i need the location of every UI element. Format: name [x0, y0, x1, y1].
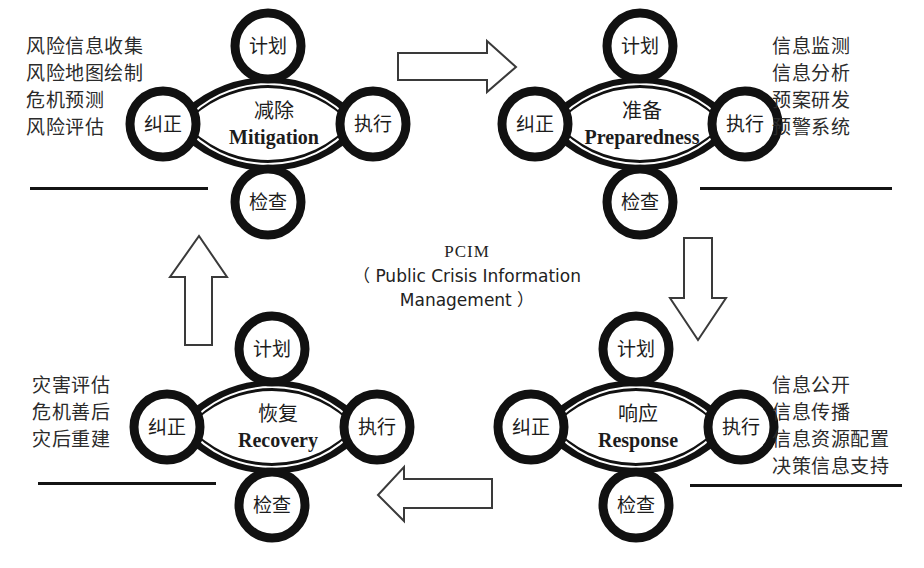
phase-label-en: Response	[598, 429, 678, 452]
node-act-label: 纠正	[516, 113, 554, 135]
node-check-label: 检查	[617, 494, 655, 516]
phase-label-en: Mitigation	[229, 126, 319, 149]
node-act-label: 纠正	[512, 416, 550, 438]
node-check-label: 检查	[253, 494, 291, 516]
list-item: 信息监测	[772, 33, 850, 60]
node-act-label: 纠正	[144, 113, 182, 135]
node-plan-label: 计划	[249, 35, 287, 57]
list-item: 风险地图绘制	[26, 60, 143, 87]
list-item: 预案研发	[772, 87, 850, 114]
phase-label-en: Recovery	[238, 429, 318, 452]
node-do-label: 执行	[722, 416, 760, 438]
list-item: 决策信息支持	[772, 453, 889, 480]
diagram-canvas: 计划 检查 纠正 执行 减除 Mitigation 计划 检查 纠正 执行 准备…	[0, 0, 924, 568]
list-item: 风险信息收集	[26, 33, 143, 60]
center-title-pcim: PCIM （ Public Crisis Information Managem…	[332, 240, 602, 312]
node-plan-label: 计划	[621, 35, 659, 57]
node-do-label: 执行	[358, 416, 396, 438]
list-item: 危机预测	[26, 87, 143, 114]
list-item: 信息传播	[772, 399, 889, 426]
underline-response	[690, 484, 902, 487]
phase-label-cn: 响应	[618, 402, 658, 426]
flow-arrow-top	[398, 41, 516, 92]
list-item: 风险评估	[26, 114, 143, 141]
pcim-acronym: PCIM	[332, 240, 602, 264]
flow-arrow-left	[170, 236, 227, 345]
node-do-label: 执行	[726, 113, 764, 135]
flow-arrow-bottom	[378, 467, 492, 521]
underline-preparedness	[700, 187, 892, 190]
list-item: 信息资源配置	[772, 426, 889, 453]
list-item: 灾害评估	[32, 372, 110, 399]
list-item: 危机善后	[32, 399, 110, 426]
node-plan-label: 计划	[617, 338, 655, 360]
phase-label-cn: 恢复	[258, 402, 298, 426]
node-do-label: 执行	[354, 113, 392, 135]
list-item: 预警系统	[772, 114, 850, 141]
pcim-expansion-line1: （ Public Crisis Information	[332, 264, 602, 288]
phase-items-recovery: 灾害评估 危机善后 灾后重建	[32, 372, 110, 453]
list-item: 信息公开	[772, 372, 889, 399]
flow-arrow-right	[670, 238, 726, 340]
phase-items-response: 信息公开 信息传播 信息资源配置 决策信息支持	[772, 372, 889, 480]
list-item: 信息分析	[772, 60, 850, 87]
underline-recovery	[38, 482, 216, 485]
phase-items-mitigation: 风险信息收集 风险地图绘制 危机预测 风险评估	[26, 33, 143, 141]
phase-label-cn: 准备	[622, 99, 662, 123]
list-item: 灾后重建	[32, 426, 110, 453]
phase-items-preparedness: 信息监测 信息分析 预案研发 预警系统	[772, 33, 850, 141]
pcim-expansion-line2: Management ）	[332, 288, 602, 312]
phase-group-preparedness[interactable]: 计划 检查 纠正 执行 准备 Preparedness	[502, 13, 778, 235]
phase-group-response[interactable]: 计划 检查 纠正 执行 响应 Response	[498, 316, 774, 538]
underline-mitigation	[30, 187, 208, 190]
phase-label-cn: 减除	[254, 99, 294, 123]
phase-label-en: Preparedness	[585, 126, 700, 149]
node-plan-label: 计划	[253, 338, 291, 360]
phase-group-recovery[interactable]: 计划 检查 纠正 执行 恢复 Recovery	[134, 316, 410, 538]
phase-group-mitigation[interactable]: 计划 检查 纠正 执行 减除 Mitigation	[130, 13, 406, 235]
node-act-label: 纠正	[148, 416, 186, 438]
node-check-label: 检查	[621, 191, 659, 213]
node-check-label: 检查	[249, 191, 287, 213]
